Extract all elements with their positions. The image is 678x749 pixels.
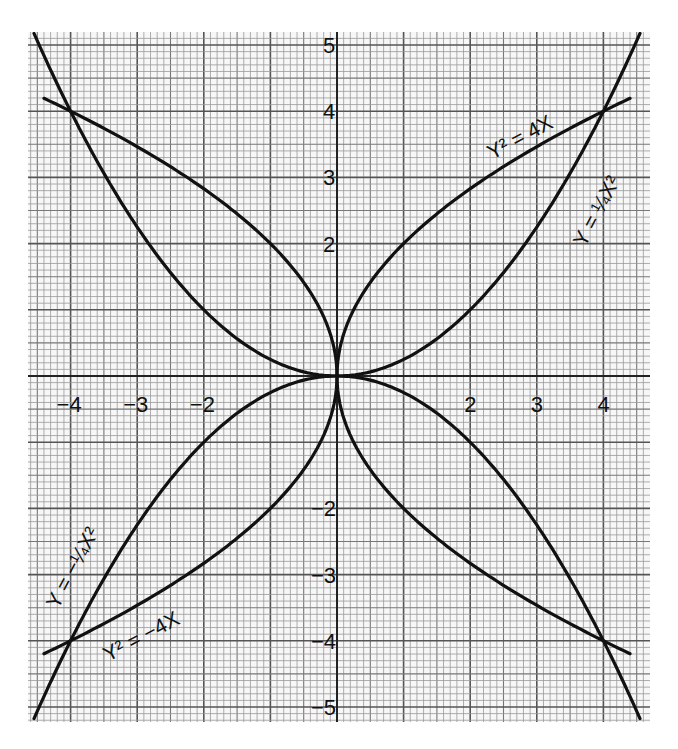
y-tick-label: 5 (323, 33, 335, 58)
mask-top (0, 0, 678, 32)
x-tick-label: −3 (123, 392, 148, 417)
y-tick-label: −4 (311, 629, 336, 654)
mask-bottom (0, 722, 678, 749)
x-tick-label: 2 (464, 392, 476, 417)
mask-left (0, 0, 28, 749)
x-tick-label: 3 (531, 392, 543, 417)
x-tick-label: −2 (190, 392, 215, 417)
y-tick-label: −5 (311, 695, 336, 720)
graph-paper-plot: −4−3−22345432−2−3−4−5Y² = 4XY = ¼X²Y = −… (0, 0, 678, 749)
y-tick-label: −3 (311, 563, 336, 588)
y-tick-label: 2 (323, 232, 335, 257)
y-tick-label: 3 (323, 165, 335, 190)
y-tick-label: −2 (311, 496, 336, 521)
x-tick-label: 4 (597, 392, 609, 417)
mask-right (650, 0, 678, 749)
x-tick-label: −4 (57, 392, 82, 417)
y-tick-label: 4 (323, 99, 335, 124)
